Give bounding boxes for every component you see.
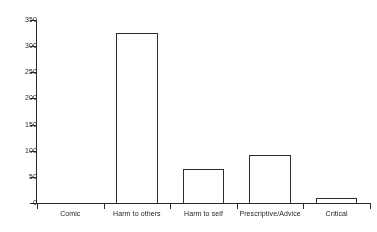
y-tick-mark <box>30 98 37 99</box>
y-tick-mark <box>30 203 37 204</box>
x-axis-label: Harm to others <box>104 210 171 218</box>
y-tick-mark <box>30 151 37 152</box>
bar <box>249 155 290 203</box>
x-tick-mark <box>37 203 38 209</box>
y-tick-mark <box>30 72 37 73</box>
x-tick-mark <box>370 203 371 209</box>
bar <box>183 169 224 203</box>
y-tick-mark <box>30 46 37 47</box>
bar <box>316 198 357 203</box>
x-axis-label: Comic <box>37 210 104 218</box>
x-axis-label: Prescriptive/Advice <box>237 210 304 218</box>
x-tick-mark <box>104 203 105 209</box>
y-tick-mark <box>30 20 37 21</box>
bar <box>116 33 157 203</box>
x-tick-mark <box>237 203 238 209</box>
y-tick-mark <box>30 177 37 178</box>
x-axis-label: Harm to self <box>170 210 237 218</box>
x-tick-mark <box>303 203 304 209</box>
bar-chart: 050100150200250300350 ComicHarm to other… <box>0 0 377 232</box>
y-tick-mark <box>30 125 37 126</box>
x-axis-label: Critical <box>303 210 370 218</box>
x-axis-line <box>36 203 371 204</box>
x-tick-mark <box>170 203 171 209</box>
